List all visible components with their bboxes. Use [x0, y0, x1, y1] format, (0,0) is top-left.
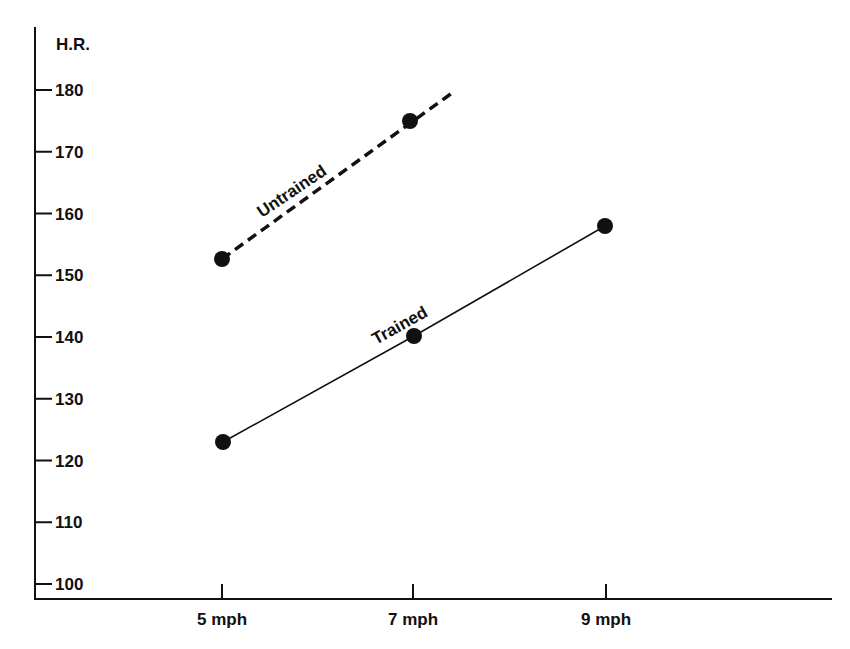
y-tick-label: 150	[55, 266, 83, 285]
y-ticks: 100110120130140150160170180	[35, 81, 83, 594]
y-tick-label: 170	[55, 143, 83, 162]
y-tick-label: 180	[55, 81, 83, 100]
y-tick-label: 140	[55, 328, 83, 347]
y-axis-title: H.R.	[56, 35, 90, 54]
trained-label: Trained	[369, 303, 431, 349]
trained-point-5mph	[215, 434, 231, 450]
x-tick-label: 9 mph	[581, 610, 631, 629]
y-tick-label: 100	[55, 575, 83, 594]
x-tick-label: 7 mph	[388, 610, 438, 629]
y-tick-label: 130	[55, 390, 83, 409]
x-ticks: 5 mph7 mph9 mph	[197, 584, 631, 629]
series-untrained: Untrained	[214, 93, 452, 267]
untrained-point-5mph	[214, 251, 230, 267]
y-tick-label: 160	[55, 205, 83, 224]
series-trained: Trained	[215, 218, 613, 450]
chart: H.R. 100110120130140150160170180 5 mph7 …	[0, 0, 850, 649]
y-tick-label: 110	[55, 513, 82, 532]
x-tick-label: 5 mph	[197, 610, 247, 629]
untrained-point-7mph	[402, 113, 418, 129]
untrained-line	[222, 93, 452, 259]
trained-point-9mph	[597, 218, 613, 234]
y-tick-label: 120	[55, 452, 83, 471]
